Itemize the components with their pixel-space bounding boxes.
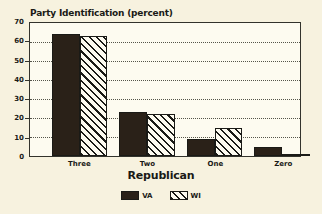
y-tick-label: 0	[19, 153, 24, 161]
y-tick-label: 20	[14, 114, 24, 122]
legend-item-wi[interactable]: WI	[170, 191, 201, 200]
x-tick-label-two: Two	[140, 160, 155, 168]
legend-item-va[interactable]: VA	[121, 191, 152, 200]
y-tick-label: 40	[14, 76, 24, 84]
bar-one-wi[interactable]	[215, 128, 243, 157]
x-axis-title: Republican	[0, 169, 322, 182]
bar-three-wi[interactable]	[80, 36, 108, 156]
y-tick-label: 60	[14, 37, 24, 45]
chart-container: Party Identification (percent) 70 60 50 …	[0, 0, 322, 214]
legend-label-va: VA	[142, 192, 152, 200]
x-tick-label-zero: Zero	[274, 160, 292, 168]
x-tick-label-one: One	[207, 160, 223, 168]
legend-swatch-hatch-icon	[170, 191, 188, 200]
bar-two-wi[interactable]	[147, 114, 175, 156]
bar-zero-va[interactable]	[254, 147, 282, 156]
y-tick-label: 10	[14, 134, 24, 142]
x-tick-label-three: Three	[68, 160, 91, 168]
legend-swatch-solid-icon	[121, 191, 139, 200]
bar-three-va[interactable]	[52, 34, 80, 156]
bar-two-va[interactable]	[119, 112, 147, 156]
legend: VA WI	[0, 191, 322, 200]
legend-label-wi: WI	[191, 192, 201, 200]
y-tick-label: 30	[14, 95, 24, 103]
y-tick-label: 50	[14, 57, 24, 65]
bar-zero-wi[interactable]	[282, 154, 310, 156]
y-axis: 70 60 50 40 30 20 10 0	[0, 22, 29, 157]
bars-layer	[30, 23, 300, 156]
plot-area	[29, 22, 301, 157]
y-tick-label: 70	[14, 18, 24, 26]
bar-one-va[interactable]	[187, 139, 215, 156]
chart-title: Party Identification (percent)	[30, 8, 173, 18]
